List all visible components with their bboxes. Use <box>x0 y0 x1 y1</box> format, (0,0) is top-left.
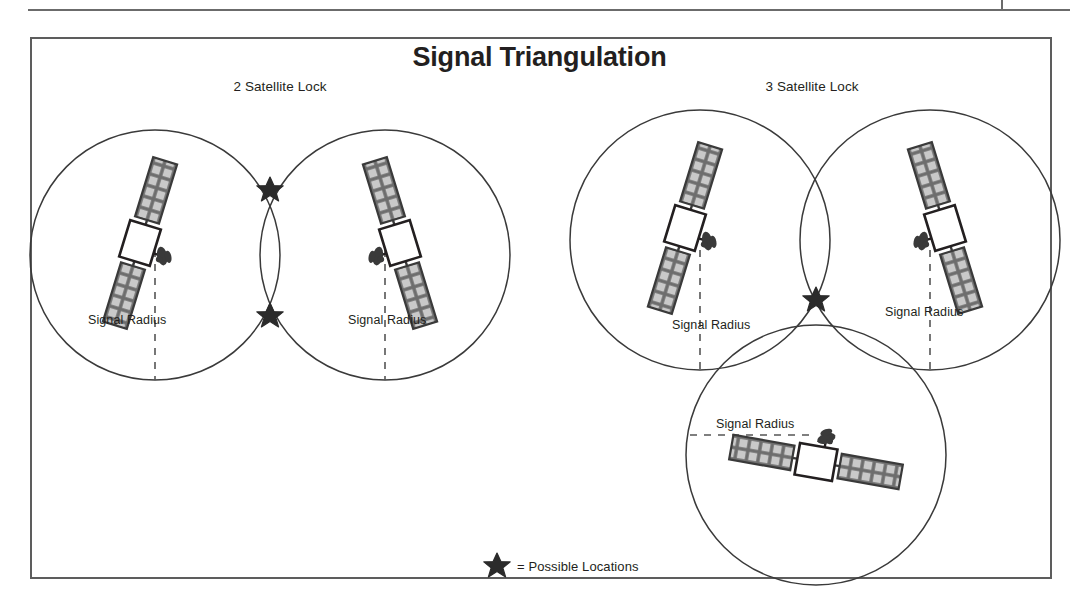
radius-label-top-left: Signal Radius <box>672 318 750 332</box>
figure-title: Signal Triangulation <box>0 42 1079 73</box>
radius-label-right: Signal Radius <box>348 313 426 327</box>
figure-page: Signal Triangulation 2 Satellite Lock 3 … <box>0 0 1079 604</box>
radius-label-top-right: Signal Radius <box>885 305 963 319</box>
group-label-two-satellite: 2 Satellite Lock <box>180 79 380 94</box>
page-header-rule <box>28 9 1070 11</box>
radius-label-bottom: Signal Radius <box>716 417 794 431</box>
page-header-tick <box>1001 0 1003 10</box>
legend-text: = Possible Locations <box>517 559 639 574</box>
group-label-three-satellite: 3 Satellite Lock <box>712 79 912 94</box>
radius-label-left: Signal Radius <box>88 313 166 327</box>
